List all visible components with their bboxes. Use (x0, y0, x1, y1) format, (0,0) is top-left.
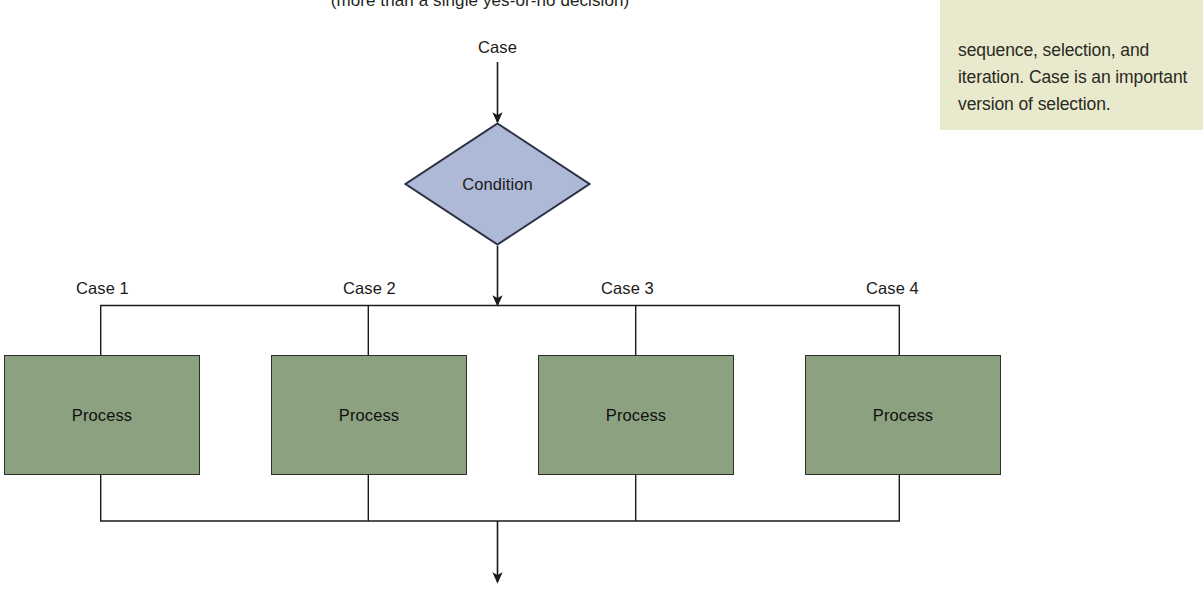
branch-label-case-3: Case 3 (601, 279, 654, 298)
figure-caption: (more than a single yes-or-no decision) (0, 0, 960, 11)
process-box-1: Process (4, 355, 200, 475)
process-box-label: Process (72, 406, 132, 425)
entry-label: Case (0, 38, 995, 57)
flowchart-figure: (more than a single yes-or-no decision) … (0, 0, 1203, 610)
process-box-3: Process (538, 355, 734, 475)
decision-label: Condition (404, 122, 591, 246)
process-box-label: Process (339, 406, 399, 425)
branch-label-case-4: Case 4 (866, 279, 919, 298)
margin-note: sequence, selection, and iteration. Case… (940, 0, 1203, 130)
decision-diamond: Condition (404, 122, 591, 246)
process-box-label: Process (873, 406, 933, 425)
process-box-2: Process (271, 355, 467, 475)
process-box-4: Process (805, 355, 1001, 475)
branch-label-case-2: Case 2 (343, 279, 396, 298)
process-box-label: Process (606, 406, 666, 425)
branch-label-case-1: Case 1 (76, 279, 129, 298)
